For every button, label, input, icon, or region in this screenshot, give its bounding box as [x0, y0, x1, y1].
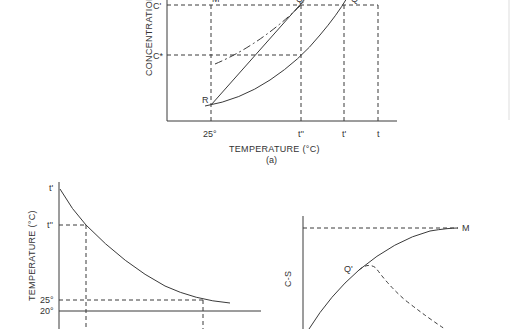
chart-b-y-label: TEMPERATURE (°C)	[27, 210, 37, 301]
tick-t2: t''	[47, 220, 53, 230]
tick-c-prime: C'	[153, 1, 161, 11]
point-q2-label: Q	[351, 0, 358, 4]
tick-25: 25°	[40, 295, 54, 305]
tick-x-25: 25°	[203, 129, 217, 139]
chart-a: CONCENTRATION C' C* R M Q Q 25° t'' t' t…	[144, 0, 397, 165]
straight-line-from-r	[211, 0, 306, 105]
point-m-label: M	[462, 223, 470, 233]
chart-c: C-S Q' M	[283, 216, 470, 329]
tick-x-t1: t'	[342, 129, 347, 139]
chart-a-caption: (a)	[266, 155, 277, 165]
point-r-label: R	[202, 95, 209, 105]
tick-c-star: C*	[153, 51, 163, 61]
tick-x-t: t	[377, 129, 380, 139]
chart-b: TEMPERATURE (°C) t' t'' 25° 20°	[27, 182, 261, 329]
tick-x-t2: t''	[298, 129, 304, 139]
point-q1-label: Q	[296, 0, 303, 4]
point-q-prime-label: Q'	[344, 264, 353, 274]
chart-c-y-label: C-S	[283, 271, 293, 287]
point-m-label: M	[212, 0, 220, 4]
chart-a-y-label: CONCENTRATION	[144, 0, 154, 76]
tick-20: 20°	[40, 306, 54, 316]
tick-t1: t'	[49, 183, 54, 193]
dashed-branch-curve	[359, 265, 445, 329]
solubility-curve	[205, 0, 347, 106]
figure-canvas: CONCENTRATION C' C* R M Q Q 25° t'' t' t…	[0, 0, 511, 329]
chart-a-x-label: TEMPERATURE (°C)	[229, 144, 320, 154]
